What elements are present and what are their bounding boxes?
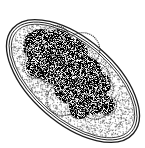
egg-illustration [0,0,145,148]
egg-drawing [0,0,145,148]
